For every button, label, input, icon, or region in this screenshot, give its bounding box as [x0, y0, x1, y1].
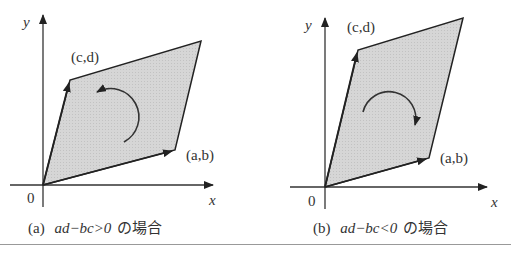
- y-axis-label-a: y: [21, 14, 30, 30]
- vertex-cd-label-a: (c,d): [71, 49, 99, 66]
- x-axis-label-b: x: [490, 194, 498, 210]
- origin-label-b: 0: [308, 193, 316, 209]
- x-axis-label-a: x: [208, 192, 216, 208]
- caption-a: (a) ad−bc>0 の場合: [28, 220, 162, 237]
- vertex-cd-label-b: (c,d): [347, 19, 375, 36]
- panel-a: y x 0 (c,d) (a,b) (a) ad−bc>0 の場合: [10, 14, 216, 237]
- determinant-orientation-diagram: y x 0 (c,d) (a,b) (a) ad−bc>0 の場合 y x 0 …: [0, 0, 511, 257]
- y-axis-label-b: y: [303, 17, 312, 33]
- vertex-ab-label-a: (a,b): [186, 147, 214, 164]
- vertex-ab-label-b: (a,b): [440, 150, 468, 167]
- origin-label-a: 0: [27, 190, 35, 206]
- panel-b: y x 0 (c,d) (a,b) (b) ad−bc<0 の場合: [290, 17, 498, 237]
- caption-b: (b) ad−bc<0 の場合: [313, 220, 448, 237]
